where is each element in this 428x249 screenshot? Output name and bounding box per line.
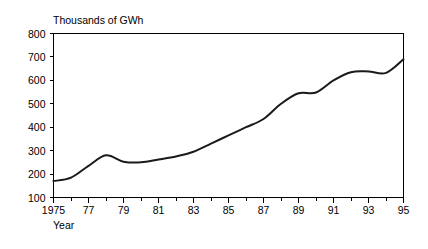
y-tick-label: 300 (28, 145, 46, 157)
x-tick-label: 93 (363, 204, 375, 216)
y-axis-tick-labels: 100200300400500600700800 (28, 28, 46, 204)
x-tick-label: 77 (83, 204, 95, 216)
x-axis-tick-labels: 197577798183858789919395 (42, 204, 410, 216)
data-series-line (54, 59, 404, 181)
y-tick-label: 500 (28, 98, 46, 110)
y-tick-label: 200 (28, 168, 46, 180)
x-tick-label: 87 (258, 204, 270, 216)
x-tick-label: 95 (398, 204, 410, 216)
y-tick-label: 600 (28, 74, 46, 86)
y-axis-title: Thousands of GWh (53, 14, 144, 26)
y-tick-label: 400 (28, 121, 46, 133)
x-tick-label: 85 (223, 204, 235, 216)
x-tick-label: 79 (118, 204, 130, 216)
y-tick-label: 700 (28, 51, 46, 63)
y-axis-ticks (50, 34, 54, 198)
x-axis-ticks (54, 198, 404, 203)
x-tick-label: 81 (153, 204, 165, 216)
x-axis-title: Year (53, 219, 75, 231)
x-tick-label: 89 (293, 204, 305, 216)
chart-figure: Thousands of GWh 10020030040050060070080… (0, 0, 428, 249)
x-tick-label: 1975 (42, 204, 66, 216)
x-tick-label: 83 (188, 204, 200, 216)
y-tick-label: 800 (28, 28, 46, 40)
line-chart: Thousands of GWh 10020030040050060070080… (0, 0, 428, 249)
y-tick-label: 100 (28, 192, 46, 204)
axis-frame (54, 34, 404, 198)
x-tick-label: 91 (328, 204, 340, 216)
